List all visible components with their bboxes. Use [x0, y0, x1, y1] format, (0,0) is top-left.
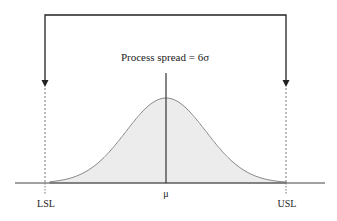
normal-distribution-curve [50, 98, 286, 183]
process-capability-diagram: Process spread = 6σ μ LSL USL [0, 0, 337, 221]
process-spread-label: Process spread = 6σ [121, 51, 209, 63]
right-arrowhead-icon [283, 80, 290, 87]
lsl-label: LSL [37, 198, 55, 209]
left-arrowhead-icon [42, 80, 49, 87]
usl-label: USL [278, 198, 297, 209]
process-spread-bracket [45, 15, 286, 81]
mean-label: μ [163, 188, 168, 199]
